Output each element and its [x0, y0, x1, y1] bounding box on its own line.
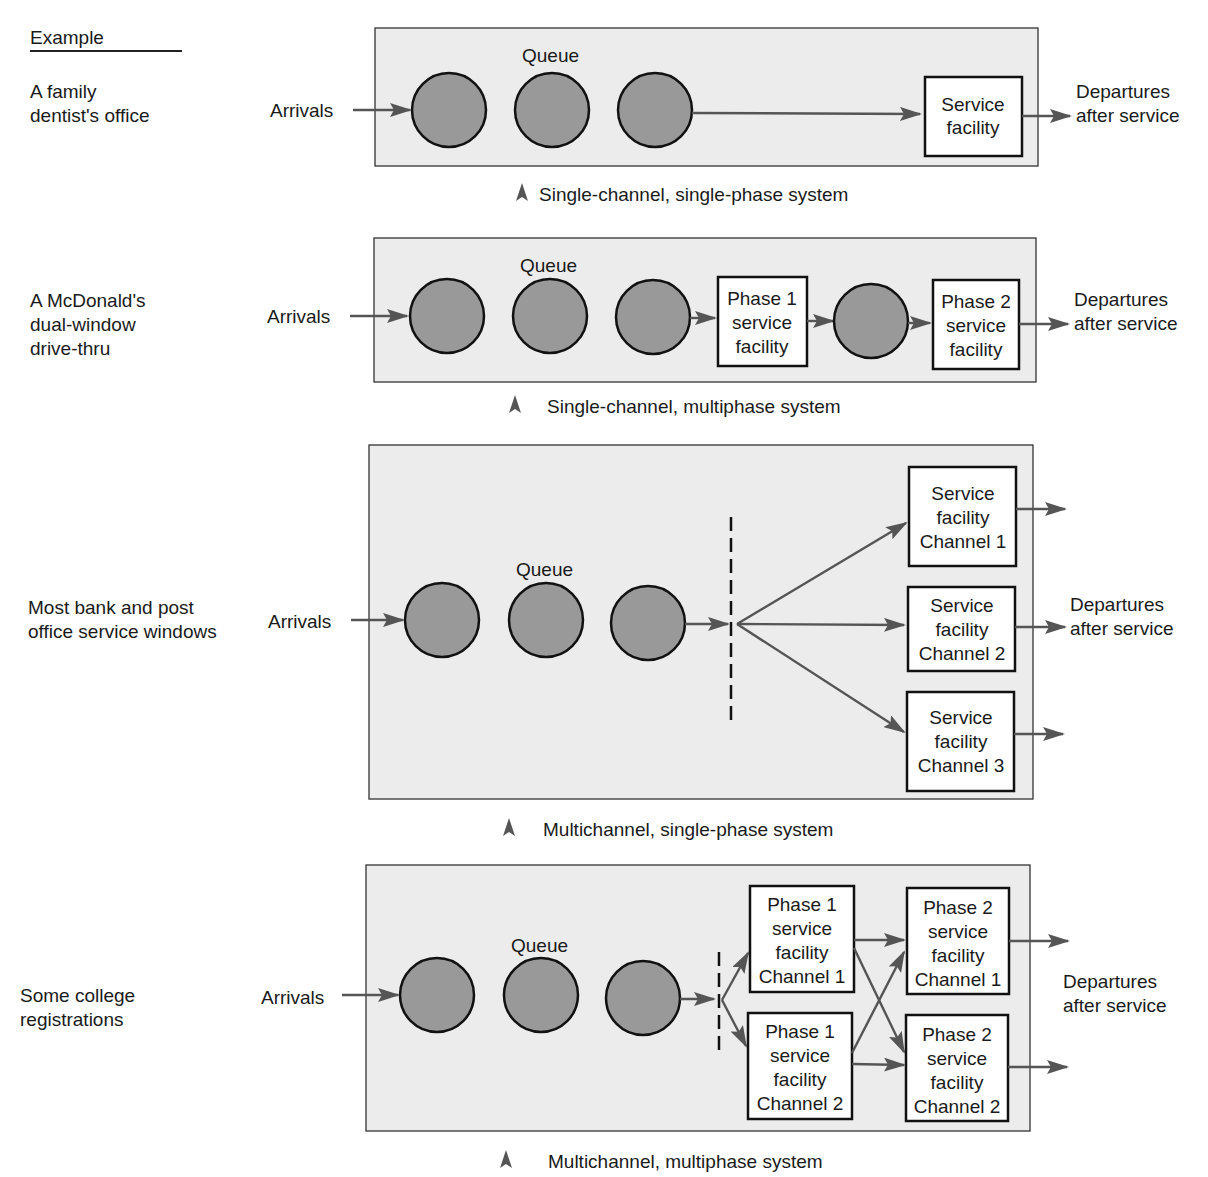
queue-customer-circle	[405, 583, 479, 657]
queue-customer-circle	[606, 961, 680, 1035]
arrivals-label: Arrivals	[267, 306, 330, 327]
facility-text: facility	[936, 619, 989, 640]
queue-label: Queue	[511, 935, 568, 956]
facility-text: facility	[950, 339, 1003, 360]
departures-label: Departures	[1070, 594, 1164, 615]
departures-label: after service	[1076, 105, 1179, 126]
facility-text: service	[927, 1048, 987, 1069]
queue-customer-circle	[513, 279, 587, 353]
departures-label: Departures	[1074, 289, 1168, 310]
facility-text: facility	[937, 507, 990, 528]
facility-text: Phase 2	[941, 291, 1011, 312]
queue-customer-circle	[515, 73, 589, 147]
facility-text: Channel 2	[914, 1096, 1001, 1117]
facility-text: service	[770, 1045, 830, 1066]
departures-label: Departures	[1063, 971, 1157, 992]
queue-customer-circle	[504, 958, 578, 1032]
system-caption: Single-channel, multiphase system	[547, 396, 841, 417]
facility-text: facility	[931, 1072, 984, 1093]
example-column-header: Example	[30, 27, 104, 48]
facility-text: facility	[776, 942, 829, 963]
queue-label: Queue	[516, 559, 573, 580]
queue-customer-circle	[410, 279, 484, 353]
example-label-line: registrations	[20, 1009, 124, 1030]
facility-text: service	[928, 921, 988, 942]
facility-text: Channel 1	[920, 531, 1007, 552]
example-label-line: drive-thru	[30, 338, 110, 359]
facility-text: Phase 1	[767, 894, 837, 915]
caption-pointer-icon	[516, 183, 528, 201]
facility-text: service	[772, 918, 832, 939]
facility-text: Service	[931, 483, 994, 504]
facility-text: Channel 2	[757, 1093, 844, 1114]
queue-customer-circle	[611, 586, 685, 660]
facility-text: Channel 2	[919, 643, 1006, 664]
system-single-channel-single-phase: A family dentist's office Arrivals Queue…	[30, 28, 1179, 205]
facility-text: Service	[929, 707, 992, 728]
arrivals-label: Arrivals	[261, 987, 324, 1008]
example-label-line: A McDonald's	[30, 290, 146, 311]
facility-text: service	[732, 312, 792, 333]
facility-text: facility	[932, 945, 985, 966]
queue-customer-circle	[616, 280, 690, 354]
flow-arrow	[692, 113, 920, 114]
arrivals-label: Arrivals	[270, 100, 333, 121]
facility-text: facility	[935, 731, 988, 752]
system-caption: Multichannel, single-phase system	[543, 819, 833, 840]
queue-customer-circle	[509, 583, 583, 657]
flow-arrow	[737, 624, 904, 625]
departures-label: Departures	[1076, 81, 1170, 102]
facility-text: facility	[774, 1069, 827, 1090]
queue-label: Queue	[522, 45, 579, 66]
departures-label: after service	[1074, 313, 1177, 334]
facility-text: Channel 1	[759, 966, 846, 987]
queue-customer-circle	[400, 958, 474, 1032]
example-label-line: office service windows	[28, 621, 217, 642]
queue-customer-circle	[834, 284, 908, 358]
system-single-channel-multiphase: A McDonald's dual-window drive-thru Arri…	[30, 238, 1177, 417]
facility-text: Service	[941, 94, 1004, 115]
queuing-systems-diagram: Example A family dentist's office Arriva…	[0, 0, 1208, 1177]
example-label-line: Most bank and post	[28, 597, 195, 618]
facility-text: Service	[930, 595, 993, 616]
system-caption: Single-channel, single-phase system	[539, 184, 848, 205]
departures-label: after service	[1070, 618, 1173, 639]
caption-pointer-icon	[509, 395, 521, 413]
facility-text: Phase 2	[922, 1024, 992, 1045]
queue-customer-circle	[412, 73, 486, 147]
system-caption: Multichannel, multiphase system	[548, 1151, 823, 1172]
flow-arrow	[852, 1064, 904, 1065]
caption-pointer-icon	[503, 818, 515, 836]
facility-text: Phase 1	[765, 1021, 835, 1042]
queue-customer-circle	[618, 73, 692, 147]
arrivals-label: Arrivals	[268, 611, 331, 632]
caption-pointer-icon	[500, 1150, 512, 1168]
example-label-line: A family	[30, 81, 97, 102]
example-label-line: dentist's office	[30, 105, 149, 126]
facility-text: facility	[736, 336, 789, 357]
queue-label: Queue	[520, 255, 577, 276]
example-label-line: Some college	[20, 985, 135, 1006]
facility-text: facility	[947, 117, 1000, 138]
facility-text: Phase 1	[727, 288, 797, 309]
facility-text: Phase 2	[923, 897, 993, 918]
example-label-line: dual-window	[30, 314, 136, 335]
system-multichannel-multiphase: Some college registrations Arrivals Queu…	[20, 865, 1166, 1172]
departures-label: after service	[1063, 995, 1166, 1016]
facility-text: Channel 1	[915, 969, 1002, 990]
facility-text: service	[946, 315, 1006, 336]
facility-text: Channel 3	[918, 755, 1005, 776]
system-multichannel-single-phase: Most bank and post office service window…	[28, 445, 1173, 840]
